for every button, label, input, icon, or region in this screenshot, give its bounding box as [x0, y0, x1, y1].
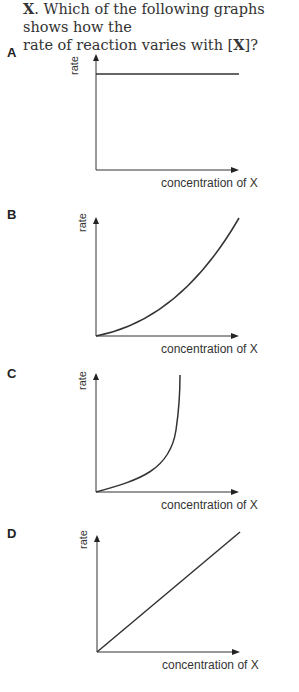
x-axis-label-d: concentration of X [162, 658, 259, 672]
y-arrow-icon [94, 535, 100, 542]
graph-d [0, 0, 299, 692]
x-arrow-icon [232, 649, 240, 655]
curve-d [97, 532, 240, 652]
